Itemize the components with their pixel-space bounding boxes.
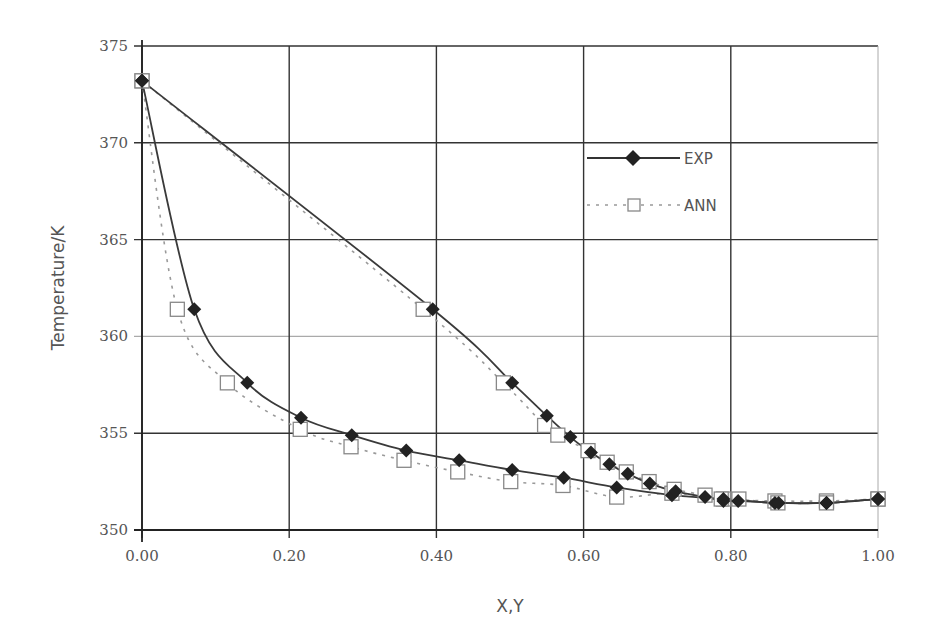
x-tick-label: 0.80: [714, 547, 747, 565]
legend-ann-square-icon: [628, 199, 640, 211]
y-tick-label: 365: [99, 231, 128, 249]
ann-square-marker: [220, 376, 234, 390]
series-layer: [135, 74, 885, 510]
y-tick-label: 375: [99, 37, 128, 55]
ann-curve: [142, 81, 878, 504]
vle-chart: 3503553603653703750.000.200.400.600.801.…: [0, 0, 936, 644]
ann-square-marker: [551, 428, 565, 442]
x-tick-label: 0.40: [420, 547, 453, 565]
y-tick-label: 360: [99, 327, 128, 345]
exp-diamond-marker: [187, 302, 201, 316]
axis-ticks: 3503553603653703750.000.200.400.600.801.…: [99, 37, 894, 565]
legend: EXP ANN: [587, 150, 717, 215]
ann-square-marker: [344, 440, 358, 454]
grid: [134, 40, 878, 542]
legend-exp-diamond-icon: [625, 150, 641, 166]
ann-square-marker: [504, 475, 518, 489]
legend-ann-label: ANN: [684, 197, 717, 215]
y-axis-label: Temperature/K: [48, 225, 68, 351]
ann-square-marker: [293, 422, 307, 436]
legend-exp-label: EXP: [684, 150, 713, 168]
y-tick-label: 370: [99, 134, 128, 152]
ann-square-marker: [170, 302, 184, 316]
ann-square-marker: [451, 465, 465, 479]
x-tick-label: 1.00: [861, 547, 894, 565]
x-tick-label: 0.00: [125, 547, 158, 565]
exp-curve: [142, 81, 878, 503]
x-tick-label: 0.60: [567, 547, 600, 565]
y-tick-label: 350: [99, 521, 128, 539]
x-axis-label: X,Y: [496, 596, 524, 616]
y-tick-label: 355: [99, 424, 128, 442]
ann-curve: [142, 81, 878, 501]
x-tick-label: 0.20: [272, 547, 305, 565]
exp-curve: [142, 81, 878, 504]
